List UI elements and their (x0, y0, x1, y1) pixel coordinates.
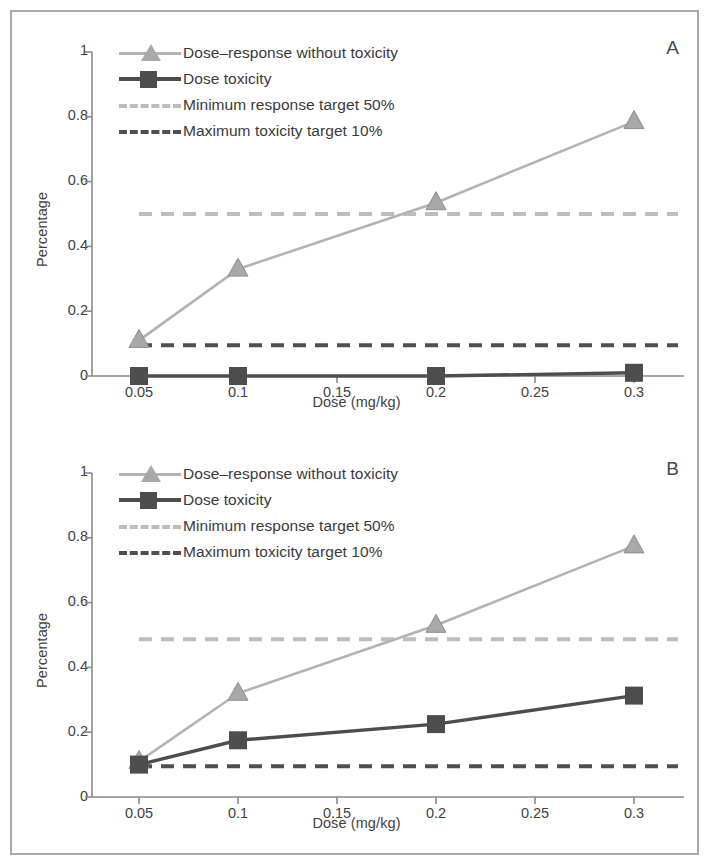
legend-label: Maximum toxicity target 10% (183, 122, 382, 140)
legend-label: Minimum response target 50% (183, 96, 395, 114)
data-marker-triangle (624, 111, 644, 129)
legend-item: Dose toxicity (117, 487, 398, 513)
data-marker-square (625, 364, 643, 382)
legend-a: Dose–response without toxicity Dose toxi… (117, 40, 398, 144)
legend-label: Dose–response without toxicity (183, 465, 398, 483)
data-marker-triangle (129, 329, 149, 347)
data-marker-square (229, 731, 247, 749)
legend-key-response-icon (117, 463, 183, 485)
data-marker-square (427, 715, 445, 733)
dose-toxicity-line-a (139, 373, 634, 376)
legend-item: Maximum toxicity target 10% (117, 118, 398, 144)
figure-frame: A Percentage Dose (mg/kg) 0 0.2 0.4 0.6 … (10, 10, 699, 855)
legend-b: Dose–response without toxicity Dose toxi… (117, 461, 398, 565)
dose-toxicity-line-b (139, 696, 634, 765)
data-marker-square (130, 367, 148, 385)
legend-key-toxicity-icon (117, 68, 183, 90)
legend-key-toxicity-icon (117, 489, 183, 511)
legend-item: Dose–response without toxicity (117, 40, 398, 66)
legend-label: Dose toxicity (183, 491, 272, 509)
legend-label: Maximum toxicity target 10% (183, 543, 382, 561)
legend-key-max-toxicity-icon (117, 541, 183, 563)
data-marker-triangle (624, 535, 644, 553)
data-marker-square (625, 687, 643, 705)
legend-item: Minimum response target 50% (117, 513, 398, 539)
legend-item: Dose–response without toxicity (117, 461, 398, 487)
legend-key-max-toxicity-icon (117, 120, 183, 142)
chart-panel-b: B Percentage Dose (mg/kg) 0 0.2 0.4 0.6 … (12, 433, 701, 854)
legend-label: Dose–response without toxicity (183, 44, 398, 62)
chart-panel-a: A Percentage Dose (mg/kg) 0 0.2 0.4 0.6 … (12, 12, 701, 433)
data-marker-square (229, 367, 247, 385)
legend-key-response-icon (117, 42, 183, 64)
data-marker-square (130, 756, 148, 774)
data-marker-square (427, 367, 445, 385)
legend-key-min-response-icon (117, 515, 183, 537)
legend-label: Dose toxicity (183, 70, 272, 88)
dose-response-line-a (139, 122, 634, 341)
legend-label: Minimum response target 50% (183, 517, 395, 535)
legend-item: Minimum response target 50% (117, 92, 398, 118)
legend-item: Dose toxicity (117, 66, 398, 92)
legend-key-min-response-icon (117, 94, 183, 116)
legend-item: Maximum toxicity target 10% (117, 539, 398, 565)
